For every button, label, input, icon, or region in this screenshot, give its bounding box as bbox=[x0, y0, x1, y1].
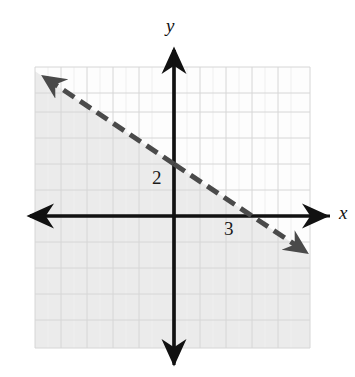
y-axis-label: y bbox=[166, 16, 174, 35]
x-intercept-label: 3 bbox=[224, 219, 234, 238]
y-intercept-label: 2 bbox=[152, 168, 162, 187]
graph-figure: y x 2 3 bbox=[0, 0, 355, 377]
coordinate-plane-svg bbox=[0, 0, 355, 377]
x-axis-label: x bbox=[339, 203, 347, 222]
